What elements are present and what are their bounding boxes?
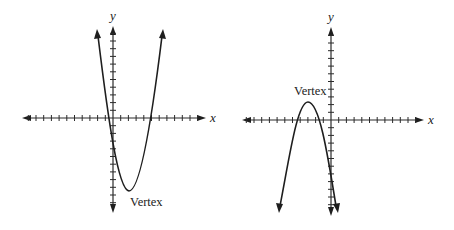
y-axis [110, 26, 116, 213]
y-axis-up-arrow-icon [328, 27, 334, 36]
left-graph-canvas: y x Vertex [0, 0, 227, 230]
right-parabola-graph: y x Vertex [227, 0, 454, 230]
vertex-label: Vertex [130, 195, 163, 209]
y-axis-down-arrow-icon [110, 204, 116, 213]
x-axis-label: x [427, 112, 434, 127]
y-axis-label: y [326, 9, 334, 24]
right-graph-canvas: y x Vertex [227, 0, 454, 230]
left-parabola-graph: y x Vertex [0, 0, 227, 230]
upward-parabola-curve [98, 36, 162, 191]
x-axis-right-arrow-icon [415, 117, 424, 123]
x-axis-right-arrow-icon [197, 115, 206, 121]
x-axis [242, 117, 424, 123]
y-axis-label: y [108, 8, 116, 23]
curve-left-arrow-icon [94, 29, 101, 39]
y-axis-down-arrow-icon [328, 207, 334, 216]
curve-right-arrow-icon [159, 29, 166, 39]
curve-right-arrow-icon [333, 203, 340, 213]
x-axis-label: x [209, 110, 216, 125]
x-axis [22, 115, 206, 121]
curve-left-arrow-icon [276, 203, 283, 213]
vertex-label: Vertex [294, 84, 327, 98]
x-axis-left-arrow-icon [22, 115, 31, 121]
